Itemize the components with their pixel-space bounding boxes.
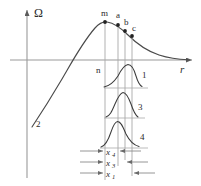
dimension-label-x1-sub: 1 xyxy=(112,173,115,180)
distribution-3-curve xyxy=(106,93,138,118)
y-axis-label: Ω xyxy=(34,6,43,20)
distribution-1-label: 1 xyxy=(142,70,147,80)
point-label-b: b xyxy=(124,17,129,27)
main-curve-group: 2 xyxy=(32,22,188,129)
distribution-1-group: 1 xyxy=(104,65,148,89)
point-marker-a xyxy=(116,23,120,27)
dimension-label-x1-base: x xyxy=(105,169,110,179)
dimension-bar-x3: x 3 xyxy=(80,158,148,169)
dimension-label-x4-base: x xyxy=(105,147,110,157)
distribution-4-curve xyxy=(101,122,139,148)
point-marker-m xyxy=(103,20,107,24)
distribution-3-label: 3 xyxy=(138,102,143,112)
dimension-label-x3-sub: 3 xyxy=(111,162,116,169)
distribution-3-group: 3 xyxy=(104,93,145,119)
main-omega-curve xyxy=(32,22,188,127)
dimension-bar-x1: x 1 xyxy=(80,169,155,180)
point-marker-c xyxy=(130,34,134,38)
distribution-1-curve xyxy=(104,65,142,88)
distribution-4-label: 4 xyxy=(140,132,145,142)
point-label-c: c xyxy=(132,23,136,33)
point-label-n: n xyxy=(96,65,101,75)
point-marker-b xyxy=(123,29,127,33)
dimension-label-x4-sub: 4 xyxy=(112,151,116,158)
dimension-label-x3-base: x xyxy=(105,158,110,168)
point-label-m: m xyxy=(101,8,108,18)
omega-r-figure: Ω r 2 m a b c n xyxy=(0,0,201,186)
axes-group: Ω r xyxy=(10,6,192,178)
curve-label-2: 2 xyxy=(36,119,41,129)
point-label-a: a xyxy=(116,10,120,20)
distribution-4-group: 4 xyxy=(100,122,148,149)
figure-container: Ω r 2 m a b c n xyxy=(0,0,201,186)
x-axis-label: r xyxy=(180,63,185,75)
